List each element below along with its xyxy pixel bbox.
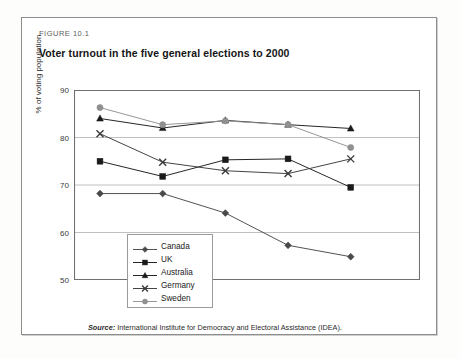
data-point-marker	[142, 247, 148, 253]
data-point-marker	[97, 158, 103, 164]
legend-label: UK	[161, 255, 172, 264]
legend-label: Germany	[161, 281, 195, 290]
data-point-marker	[348, 144, 354, 150]
line-chart-svg	[74, 90, 420, 280]
y-axis-tick-label: 70	[60, 181, 69, 190]
data-point-marker	[222, 210, 229, 217]
figure-page: FIGURE 10.1 Voter turnout in the five ge…	[0, 0, 460, 358]
data-point-marker	[285, 242, 292, 249]
data-point-marker	[160, 122, 166, 128]
data-point-marker	[347, 155, 354, 162]
data-point-marker	[97, 115, 104, 121]
legend-item-germany: Germany	[132, 279, 208, 292]
legend-item-australia: Australia	[132, 266, 208, 279]
legend-marker-triangle-icon	[132, 267, 158, 278]
source-note: Source: International Institute for Demo…	[88, 323, 342, 332]
data-point-marker	[97, 104, 103, 110]
chart-plot-region: % of voting population 5060708090	[74, 90, 420, 280]
legend-marker-square-icon	[132, 254, 158, 265]
legend-label: Sweden	[161, 294, 191, 303]
y-axis-tick-label: 80	[60, 133, 69, 142]
y-axis-tick-label: 50	[60, 276, 69, 285]
data-point-marker	[348, 184, 354, 190]
data-point-marker	[347, 253, 354, 260]
data-point-marker	[222, 157, 228, 163]
figure-frame: FIGURE 10.1 Voter turnout in the five ge…	[21, 17, 437, 335]
figure-title: Voter turnout in the five general electi…	[39, 47, 290, 59]
source-prefix: Source:	[88, 323, 115, 332]
source-text: International Institute for Democracy an…	[115, 323, 342, 332]
data-point-marker	[160, 174, 166, 180]
series-sweden	[97, 104, 354, 150]
series-line	[100, 108, 351, 148]
series-line	[100, 134, 351, 174]
data-point-marker	[285, 122, 291, 128]
data-point-marker	[97, 130, 104, 137]
data-point-marker	[159, 190, 166, 197]
figure-number-label: FIGURE 10.1	[39, 29, 90, 38]
legend-marker-circle-icon	[132, 293, 158, 304]
chart-legend: CanadaUKAustraliaGermanySweden	[127, 234, 213, 308]
y-axis-tick-label: 60	[60, 228, 69, 237]
legend-item-uk: UK	[132, 253, 208, 266]
legend-marker-diamond-icon	[132, 241, 158, 252]
data-point-marker	[97, 190, 104, 197]
series-line	[100, 159, 351, 188]
legend-label: Canada	[161, 242, 190, 251]
y-axis-label: % of voting population	[34, 14, 43, 134]
legend-marker-cross-icon	[132, 280, 158, 291]
data-point-marker	[142, 299, 147, 304]
data-point-marker	[222, 118, 228, 124]
data-point-marker	[143, 260, 148, 265]
legend-label: Australia	[161, 268, 193, 277]
data-point-marker	[285, 156, 291, 162]
legend-item-canada: Canada	[132, 240, 208, 253]
y-axis-tick-label: 90	[60, 86, 69, 95]
legend-item-sweden: Sweden	[132, 292, 208, 305]
